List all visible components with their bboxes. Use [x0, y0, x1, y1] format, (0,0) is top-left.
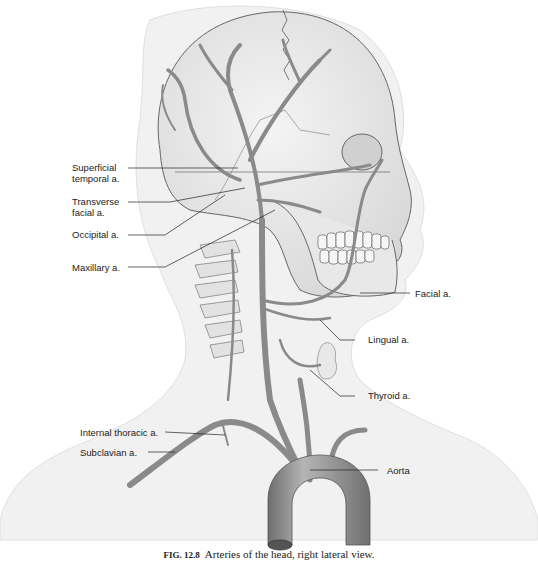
- label-internal-thoracic: Internal thoracic a.: [80, 427, 158, 438]
- figure-caption-text: Arteries of the head, right lateral view…: [205, 548, 375, 560]
- orbit: [342, 134, 382, 170]
- label-maxillary: Maxillary a.: [72, 262, 120, 273]
- label-thyroid: Thyroid a.: [368, 390, 410, 401]
- label-superficial-temporal-line2: temporal a.: [72, 173, 120, 184]
- figure-caption: FIG. 12.8 Arteries of the head, right la…: [0, 548, 538, 560]
- thyroid-gland: [317, 343, 336, 379]
- figure-number: FIG. 12.8: [163, 550, 199, 560]
- label-transverse-facial-line2: facial a.: [72, 207, 119, 218]
- label-lingual: Lingual a.: [368, 334, 409, 345]
- label-superficial-temporal-line1: Superficial: [72, 162, 120, 173]
- anatomy-figure: Superficial temporal a. Transverse facia…: [0, 0, 538, 567]
- arteries-illustration: [0, 0, 538, 567]
- label-transverse-facial: Transverse facial a.: [72, 196, 119, 218]
- label-subclavian: Subclavian a.: [80, 447, 137, 458]
- label-transverse-facial-line1: Transverse: [72, 196, 119, 207]
- label-superficial-temporal: Superficial temporal a.: [72, 162, 120, 184]
- label-facial: Facial a.: [415, 288, 451, 299]
- label-aorta: Aorta: [387, 465, 410, 476]
- label-occipital: Occipital a.: [72, 229, 119, 240]
